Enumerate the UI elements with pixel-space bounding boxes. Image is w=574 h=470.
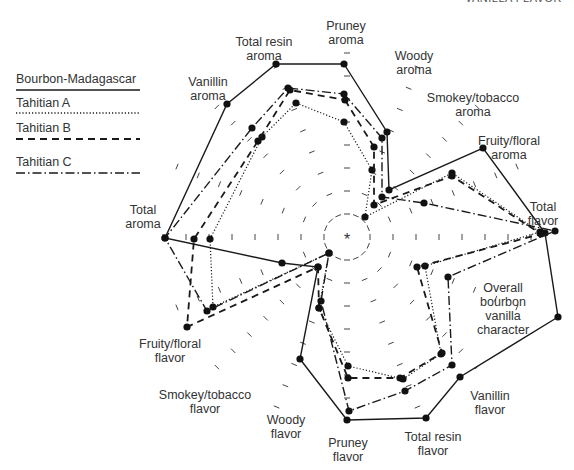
data-point	[448, 172, 455, 179]
axis-tick	[218, 287, 220, 293]
data-point	[378, 193, 385, 200]
data-point	[385, 186, 392, 193]
axis-tick	[397, 363, 403, 365]
axis-tick	[371, 300, 377, 302]
legend-item-tahitian-b: Tahitian B	[16, 121, 71, 135]
axis-tick	[176, 164, 178, 170]
axis-tick	[300, 130, 306, 132]
axis-label: Total resin aroma	[236, 35, 293, 63]
axis-tick	[516, 164, 518, 170]
data-point	[537, 230, 544, 237]
axis-tick	[426, 154, 430, 158]
axis-tick	[406, 385, 412, 387]
data-point	[344, 362, 351, 369]
axis-tick	[388, 252, 390, 258]
data-point	[448, 361, 455, 368]
data-point	[396, 374, 403, 381]
axis-tick	[247, 332, 251, 336]
axis-tick	[291, 363, 297, 365]
axis-tick	[361, 251, 365, 255]
data-point	[254, 137, 261, 144]
axis-tick	[303, 217, 305, 223]
axis-tick	[280, 300, 284, 304]
axis-tick	[473, 181, 475, 187]
data-point	[340, 60, 347, 67]
data-point	[444, 273, 451, 280]
axis-tick	[274, 406, 280, 408]
data-point	[401, 387, 408, 394]
data-point	[292, 99, 299, 106]
axis-tick	[215, 105, 219, 109]
axis-tick	[367, 225, 369, 231]
data-point	[420, 199, 427, 206]
axis-label: Smokey/tobacco flavor	[159, 388, 251, 416]
axis-tick	[231, 121, 235, 125]
data-point	[315, 304, 322, 311]
axis-tick	[431, 269, 433, 275]
axis-tick	[415, 406, 421, 408]
axis-tick	[296, 284, 300, 288]
axis-label: Pruney flavor	[328, 436, 368, 464]
data-point	[183, 323, 190, 330]
data-point	[296, 355, 303, 362]
data-point	[314, 263, 321, 270]
legend-item-tahitian-c: Tahitian C	[16, 155, 72, 169]
axis-tick	[362, 193, 368, 195]
data-point	[278, 259, 285, 266]
data-point	[317, 297, 324, 304]
axis-tick	[452, 190, 454, 196]
axis-label: Total aroma	[125, 203, 160, 231]
axis-label: Smokey/tobacco aroma	[427, 91, 519, 119]
legend-item-bourbon: Bourbon-Madagascar	[16, 72, 136, 86]
legend-item-tahitian-a: Tahitian A	[16, 96, 70, 110]
axis-tick	[327, 278, 333, 280]
axis-tick	[410, 170, 414, 174]
axis-tick	[335, 215, 341, 217]
axis-tick	[264, 316, 268, 320]
axis-tick	[325, 225, 327, 231]
axis-label: Woody flavor	[267, 413, 306, 441]
legend-label: Bourbon-Madagascar	[16, 72, 136, 86]
data-point	[438, 349, 445, 356]
axis-tick	[452, 278, 454, 284]
axis-tick	[218, 181, 220, 187]
axis-label: Vanillin flavor	[470, 389, 509, 417]
axis-label: Vanillin aroma	[188, 75, 227, 103]
data-point	[422, 414, 429, 421]
axis-tick	[247, 137, 251, 141]
axis-label: Overall bourbon vanilla character	[477, 281, 529, 337]
axis-tick	[388, 217, 390, 223]
axis-tick	[303, 252, 305, 258]
axis-tick	[261, 199, 263, 205]
axis-tick	[264, 154, 268, 158]
data-point	[340, 90, 347, 97]
data-point	[248, 124, 255, 131]
axis-tick	[473, 287, 475, 293]
axis-tick	[318, 172, 324, 174]
axis-label: Pruney aroma	[326, 19, 366, 47]
axis-label: Fruity/floral flavor	[139, 337, 201, 365]
axis-tick	[335, 257, 341, 259]
data-point	[456, 373, 463, 380]
legend-label: Tahitian B	[16, 121, 71, 135]
axis-tick	[495, 173, 497, 179]
axis-tick	[367, 243, 369, 249]
axis-tick	[282, 208, 284, 214]
legend-label: Tahitian A	[16, 96, 70, 110]
axis-tick	[431, 199, 433, 205]
axis-tick	[426, 316, 430, 320]
axis-tick	[240, 190, 242, 196]
axis-tick	[388, 342, 394, 344]
data-point	[203, 307, 210, 314]
axis-tick	[280, 170, 284, 174]
axis-tick	[353, 257, 359, 259]
axis-tick	[176, 305, 178, 311]
data-point	[340, 118, 347, 125]
axis-tick	[312, 202, 316, 206]
axis-tick	[442, 137, 446, 141]
axis-tick	[410, 208, 412, 214]
axis-tick	[283, 385, 289, 387]
data-point	[343, 416, 350, 423]
axis-tick	[291, 108, 297, 110]
data-point	[370, 201, 377, 208]
